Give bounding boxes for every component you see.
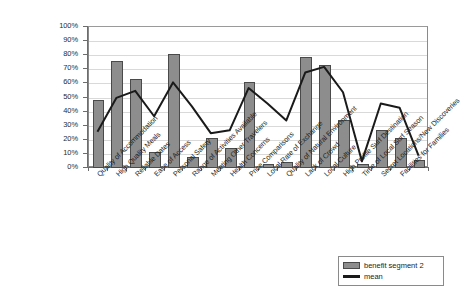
gridline (89, 69, 427, 70)
legend-label: mean (364, 272, 383, 281)
bar (93, 100, 105, 168)
x-axis-tick (428, 167, 429, 171)
legend-label: benefit segment 2 (364, 261, 424, 270)
y-axis-tick-label: 50% (38, 92, 78, 101)
y-axis-tick-label: 70% (38, 63, 78, 72)
y-axis-tick-label: 100% (38, 21, 78, 30)
y-axis-tick-label: 60% (38, 77, 78, 86)
bar-swatch-icon (343, 262, 360, 269)
line-swatch-icon (343, 275, 360, 278)
legend-item-benefit-segment-2: benefit segment 2 (343, 260, 439, 271)
y-axis-tick-label: 80% (38, 49, 78, 58)
chart-legend: benefit segment 2 mean (338, 256, 444, 286)
y-axis-tick-label: 40% (38, 106, 78, 115)
y-axis-tick-label: 90% (38, 35, 78, 44)
x-axis-tick (88, 167, 89, 171)
y-axis-tick-label: 0% (38, 162, 78, 171)
chart-container: 100%90%80%70%60%50%40%30%20%10%0% Qualit… (0, 0, 463, 296)
y-axis-tick-label: 10% (38, 148, 78, 157)
y-axis-tick-label: 20% (38, 134, 78, 143)
gridline (89, 41, 427, 42)
legend-item-mean: mean (343, 271, 439, 282)
gridline (89, 55, 427, 56)
y-axis-tick-label: 30% (38, 120, 78, 129)
